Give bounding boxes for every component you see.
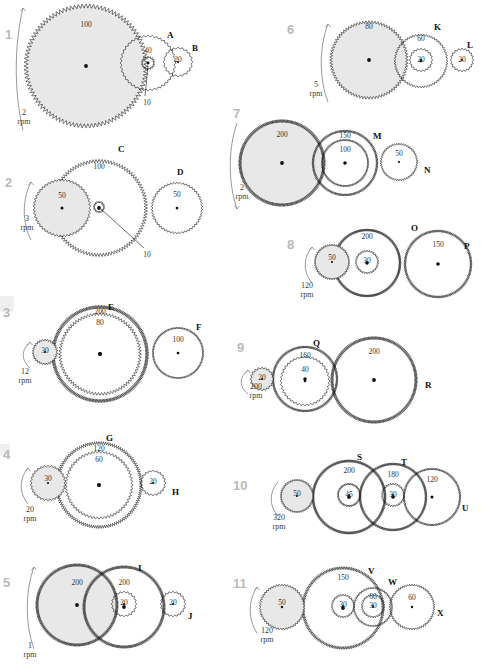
input-speed-value: 3: [13, 214, 41, 223]
driver-9-teeth: 20: [251, 373, 273, 382]
driver-4-teeth: 30: [37, 474, 59, 483]
gear-P-label: P: [464, 241, 470, 251]
input-speed-value: 2: [228, 183, 256, 192]
gear-V-pinion-teeth: 30: [332, 600, 354, 609]
rotation-arrow: [21, 468, 30, 504]
gear-E-outer-teeth: 200: [89, 307, 111, 316]
gear-K-label: K: [434, 22, 441, 32]
gear-O-teeth: 200: [356, 232, 378, 241]
input-speed-p2: 3rpm: [13, 214, 41, 232]
input-speed-p1: 2rpm: [10, 108, 38, 126]
driver-8: [314, 244, 350, 280]
leader-p2: [101, 209, 144, 248]
gear-O-pinion-teeth: 30: [356, 256, 378, 265]
gear-K-teeth: 60: [410, 34, 432, 43]
problem-number-7: 7: [233, 106, 240, 121]
gear-P-teeth: 150: [427, 240, 449, 249]
gear-V-label: V: [368, 566, 375, 576]
gear-V-teeth: 150: [332, 573, 354, 582]
input-speed-p6: 5rpm: [302, 80, 330, 98]
gear-U-label: U: [462, 503, 469, 513]
gear-A-label: A: [167, 30, 174, 40]
gear-D-label: D: [177, 167, 184, 177]
problem-number-4: 4: [3, 447, 10, 462]
gear-I-pinion-teeth: 20: [113, 598, 135, 607]
gear-T-outer-label: T: [401, 457, 407, 467]
gear-C-pinion-teeth: 10: [136, 250, 158, 259]
input-speed-value: 1: [16, 641, 44, 650]
input-speed-value: 12: [11, 367, 39, 376]
gear-S-pinion-teeth: 45: [338, 490, 360, 499]
gear-exercise-sheet: 12rpm100A4010B2023rpmC1005010D50312rpmE2…: [0, 0, 481, 664]
gear-Q-inner-teeth: 40: [294, 365, 316, 374]
gear-L-teeth: 20: [451, 55, 473, 64]
input-speed-p5: 1rpm: [16, 641, 44, 659]
input-speed-unit: rpm: [228, 192, 256, 201]
gear-G-outer-label: G: [106, 433, 113, 443]
gear-drawing-canvas: [0, 0, 481, 664]
gear-M-outer-label: M: [373, 131, 382, 141]
driver-1-teeth: 100: [75, 20, 97, 29]
gear-M-outer-teeth: 150: [334, 131, 356, 140]
gear-I-teeth: 200: [113, 578, 135, 587]
gear-Q-inner: [280, 356, 330, 406]
input-speed-p9: 200rpm: [242, 382, 270, 400]
gear-X-label: X: [437, 608, 444, 618]
driver-8-teeth: 50: [321, 253, 343, 262]
gear-O-label: O: [411, 223, 418, 233]
gear-W-pinion-teeth: 30: [362, 601, 384, 610]
rotation-arrow: [23, 342, 32, 368]
gear-K-pinion-teeth: 20: [410, 55, 432, 64]
gear-F-teeth: 100: [167, 335, 189, 344]
gear-I-label: I: [138, 563, 142, 573]
input-speed-value: 200: [242, 382, 270, 391]
input-speed-p3: 12rpm: [11, 367, 39, 385]
input-speed-p10: 320rpm: [265, 513, 293, 531]
input-speed-value: 5: [302, 80, 330, 89]
gear-A-pinion-teeth: 10: [136, 98, 158, 107]
gear-E-inner-teeth: 80: [89, 318, 111, 327]
input-speed-value: 20: [16, 505, 44, 514]
gear-R-label: R: [425, 380, 432, 390]
gear-B-teeth: 20: [167, 55, 189, 64]
driver-4: [30, 465, 66, 501]
driver-2-teeth: 50: [51, 191, 73, 200]
gear-T-pinion-teeth: 30: [382, 490, 404, 499]
gear-J-teeth: 20: [162, 598, 184, 607]
driver-2: [33, 179, 91, 237]
gear-R-teeth: 200: [363, 347, 385, 356]
gear-X: [389, 584, 435, 630]
input-speed-unit: rpm: [302, 89, 330, 98]
problem-number-10: 10: [233, 478, 247, 493]
rotation-arrow: [305, 247, 314, 283]
input-speed-unit: rpm: [13, 223, 41, 232]
problem-number-2: 2: [5, 175, 12, 190]
input-speed-unit: rpm: [10, 117, 38, 126]
input-speed-p11: 120rpm: [253, 626, 281, 644]
input-speed-unit: rpm: [253, 635, 281, 644]
gear-W-outer-teeth: 60: [362, 592, 384, 601]
gear-W-outer-label: W: [388, 577, 397, 587]
gear-N-teeth: 50: [388, 149, 410, 158]
problem-number-8: 8: [287, 237, 294, 252]
input-speed-unit: rpm: [16, 650, 44, 659]
problem-number-6: 6: [287, 22, 294, 37]
rotation-arrow: [271, 482, 280, 516]
input-speed-value: 320: [265, 513, 293, 522]
gear-L-label: L: [467, 40, 473, 50]
driver-7-teeth: 200: [271, 130, 293, 139]
gear-G-outer-teeth: 120: [88, 444, 110, 453]
gear-T-outer-teeth: 180: [382, 470, 404, 479]
problem-number-11: 11: [233, 576, 247, 591]
driver-6: [330, 21, 409, 100]
problem-number-5: 5: [3, 575, 10, 590]
driver-5: [36, 564, 119, 647]
gear-U-teeth: 120: [421, 475, 443, 484]
gear-Q-outer-label: Q: [313, 338, 320, 348]
gear-C-teeth: 100: [88, 162, 110, 171]
problem-number-3: 3: [3, 305, 10, 320]
gear-M-inner-teeth: 100: [334, 145, 356, 154]
driver-11-teeth: 50: [271, 598, 293, 607]
input-speed-unit: rpm: [242, 391, 270, 400]
driver-5-teeth: 200: [66, 578, 88, 587]
